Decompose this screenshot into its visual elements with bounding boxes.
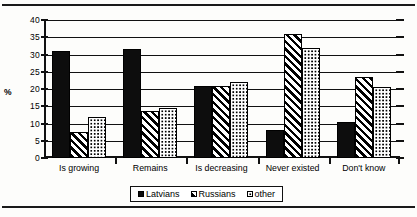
bar bbox=[194, 86, 212, 158]
grouped-bar-chart: % 0510152025303540 Is growingRemainsIs d… bbox=[0, 10, 417, 204]
bar bbox=[355, 77, 373, 158]
bar bbox=[337, 122, 355, 158]
y-axis-tick-label: 5 bbox=[35, 137, 40, 146]
chart-legend: LatviansRussiansother bbox=[130, 186, 283, 202]
legend-item: other bbox=[247, 189, 276, 199]
legend-label: other bbox=[255, 189, 276, 199]
bar bbox=[212, 86, 230, 158]
page-rule-top bbox=[2, 4, 415, 6]
y-axis-tick-label: 40 bbox=[30, 16, 40, 25]
x-axis-category-labels: Is growingRemainsIs decreasingNever exis… bbox=[44, 162, 400, 176]
x-axis-category-label: Is decreasing bbox=[195, 162, 247, 174]
legend-item: Russians bbox=[191, 189, 236, 199]
y-axis-unit-label: % bbox=[4, 88, 12, 97]
legend-swatch-icon bbox=[191, 191, 197, 197]
bar-group bbox=[194, 20, 248, 158]
bar bbox=[88, 117, 106, 158]
bar-group bbox=[123, 20, 177, 158]
bar bbox=[284, 34, 302, 158]
y-axis-tick-label: 30 bbox=[30, 50, 40, 59]
y-axis-tick-label: 0 bbox=[35, 154, 40, 163]
bars-layer bbox=[44, 20, 400, 158]
x-axis-category-label: Never existed bbox=[266, 162, 320, 174]
bar bbox=[230, 82, 248, 158]
page-rule-bottom bbox=[2, 206, 415, 208]
y-axis-tick-label: 35 bbox=[30, 33, 40, 42]
y-axis-tick-label: 20 bbox=[30, 85, 40, 94]
bar-group bbox=[266, 20, 320, 158]
bar bbox=[52, 51, 70, 158]
x-axis-category-label: Is growing bbox=[59, 162, 99, 174]
bar bbox=[70, 132, 88, 158]
legend-label: Russians bbox=[199, 189, 236, 199]
bar bbox=[123, 49, 141, 158]
bar bbox=[159, 108, 177, 158]
bar-group bbox=[52, 20, 106, 158]
x-axis-category-label: Remains bbox=[133, 162, 168, 174]
y-axis-tick-label: 25 bbox=[30, 68, 40, 77]
bar bbox=[373, 87, 391, 158]
chart-page: % 0510152025303540 Is growingRemainsIs d… bbox=[0, 0, 417, 217]
y-axis-tick-label: 10 bbox=[30, 119, 40, 128]
bar bbox=[141, 111, 159, 158]
x-axis-category-label: Don't know bbox=[342, 162, 385, 174]
legend-label: Latvians bbox=[146, 189, 180, 199]
y-axis-tick-label: 15 bbox=[30, 102, 40, 111]
bar-group bbox=[337, 20, 391, 158]
legend-swatch-icon bbox=[138, 191, 144, 197]
bar bbox=[266, 130, 284, 158]
legend-swatch-icon bbox=[247, 191, 253, 197]
legend-item: Latvians bbox=[138, 189, 180, 199]
bar bbox=[302, 48, 320, 158]
y-axis-tick-labels: 0510152025303540 bbox=[16, 20, 40, 158]
